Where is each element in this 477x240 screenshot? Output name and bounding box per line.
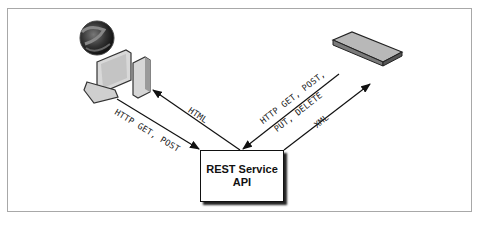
browser-computer-icon (80, 21, 150, 103)
api-node-title: REST Service (206, 163, 278, 176)
rest-service-api-node: REST Service API (200, 150, 284, 202)
api-node-subtitle: API (233, 176, 251, 189)
network-device-icon (333, 32, 402, 66)
